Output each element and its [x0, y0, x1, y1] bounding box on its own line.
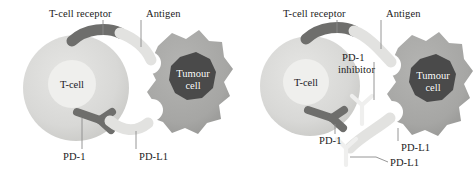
antigen-molecule — [120, 33, 151, 60]
panel-blockade: T-cell receptor Antigen T-cell Tumour ce… — [238, 0, 475, 179]
label-t-cell: T-cell — [282, 77, 330, 89]
label-pd-1-inhibitor-line2: inhibitor — [338, 64, 375, 76]
panel-binding: T-cell receptor Antigen T-cell Tumour ce… — [0, 0, 237, 179]
pd-1-inhibitor-antibody — [352, 96, 372, 124]
label-pd-1: PD-1 — [319, 135, 342, 147]
label-t-cell-receptor: T-cell receptor — [283, 8, 346, 20]
label-tumour-cell-line2: cell — [172, 80, 214, 92]
label-tumour-cell-line1: Tumour — [412, 70, 454, 82]
label-pd-l1-inhibitor: PD-L1 — [390, 157, 419, 169]
leader-line-pd-l1-inhibitor — [350, 157, 388, 162]
pd-l1-ligand-molecule — [110, 121, 148, 130]
t-cell-receptor-molecule — [306, 27, 354, 39]
pd-l1-ligand-molecule — [350, 118, 390, 148]
label-antigen: Antigen — [386, 8, 421, 20]
label-t-cell: T-cell — [48, 79, 96, 91]
label-tumour-cell-line2: cell — [412, 82, 454, 94]
label-tumour-cell-line1: Tumour — [172, 68, 214, 80]
label-pd-1-inhibitor-line1: PD-1 — [342, 52, 365, 64]
label-pd-l1: PD-L1 — [139, 151, 168, 163]
label-pd-1: PD-1 — [63, 151, 86, 163]
label-antigen: Antigen — [146, 8, 181, 20]
label-pd-l1-ligand: PD-L1 — [401, 142, 430, 154]
label-t-cell-receptor: T-cell receptor — [49, 8, 112, 20]
tumour-notch-lower-cut — [141, 99, 163, 121]
figure-canvas: T-cell receptor Antigen T-cell Tumour ce… — [0, 0, 475, 179]
